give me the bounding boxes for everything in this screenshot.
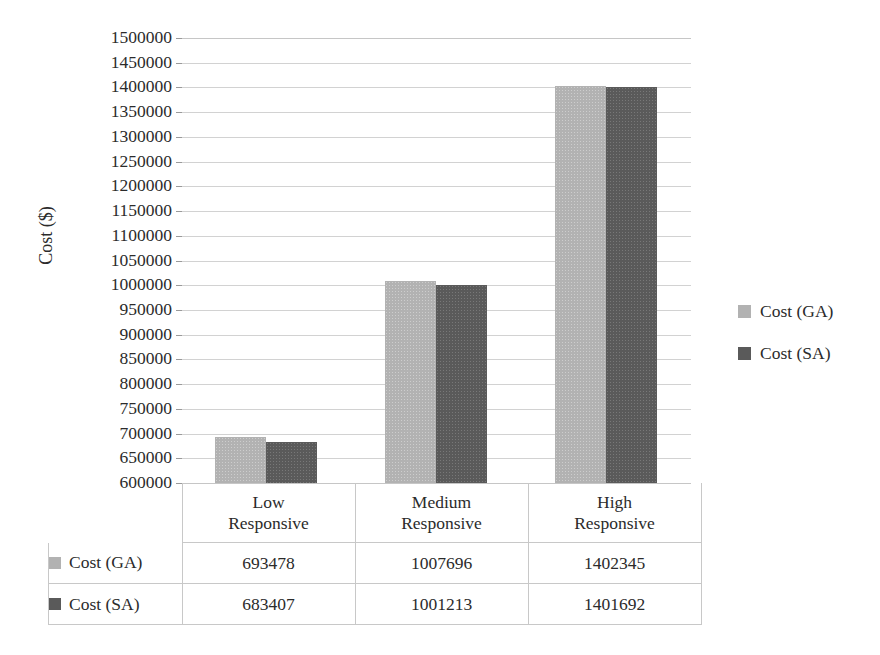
table-row-header: Cost (GA) <box>49 543 183 584</box>
table-swatch-icon <box>49 598 61 610</box>
y-axis-tick-label: 750000 <box>62 400 172 418</box>
y-axis-tick-label: 1050000 <box>62 252 172 270</box>
table-row: Cost (SA)68340710012131401692 <box>49 584 702 625</box>
y-axis-tick-mark <box>176 87 182 88</box>
y-axis-tick-mark <box>176 112 182 113</box>
y-axis-tick-mark <box>176 335 182 336</box>
table-cell: 1402345 <box>528 543 701 584</box>
y-axis-tick-label: 950000 <box>62 301 172 319</box>
bar-sa <box>606 87 657 483</box>
table-column-header-line: Responsive <box>356 513 528 534</box>
y-axis-tick-label: 850000 <box>62 350 172 368</box>
table-column-header-line: High <box>529 492 701 513</box>
y-axis-tick-mark <box>176 458 182 459</box>
table-column-header-line: Medium <box>356 492 528 513</box>
y-axis-tick-labels: 1500000145000014000001350000130000012500… <box>60 0 172 500</box>
y-axis-tick-mark <box>176 359 182 360</box>
y-axis-tick-mark <box>176 310 182 311</box>
y-axis-tick-mark <box>176 384 182 385</box>
legend-item[interactable]: Cost (GA) <box>738 290 833 332</box>
y-axis-tick-label: 1000000 <box>62 276 172 294</box>
table-column-header: MediumResponsive <box>355 483 528 543</box>
y-axis-tick-mark <box>176 409 182 410</box>
table-cell: 1001213 <box>355 584 528 625</box>
y-axis-tick-label: 1350000 <box>62 103 172 121</box>
gridline <box>181 38 691 39</box>
y-axis-tick-mark <box>176 211 182 212</box>
legend-item[interactable]: Cost (SA) <box>738 332 833 374</box>
table-row-header: Cost (SA) <box>49 584 183 625</box>
table-cell: 693478 <box>182 543 355 584</box>
y-axis-tick-label: 1150000 <box>62 202 172 220</box>
table-header-row: LowResponsiveMediumResponsiveHighRespons… <box>49 483 702 543</box>
bar-ga <box>385 281 436 483</box>
y-axis-tick-mark <box>176 137 182 138</box>
chart-figure: Cost ($) 1500000145000014000001350000130… <box>0 0 880 655</box>
gridline <box>181 63 691 64</box>
y-axis-tick-label: 1100000 <box>62 227 172 245</box>
y-axis-tick-mark <box>176 38 182 39</box>
table-row-label: Cost (GA) <box>69 552 142 573</box>
table-cell: 683407 <box>182 584 355 625</box>
table-swatch-icon <box>49 557 61 569</box>
table-row-label: Cost (SA) <box>69 594 140 615</box>
y-axis-tick-label: 1400000 <box>62 78 172 96</box>
y-axis-tick-mark <box>176 434 182 435</box>
y-axis-tick-label: 1200000 <box>62 177 172 195</box>
table-column-header-line: Responsive <box>183 513 355 534</box>
y-axis-tick-mark <box>176 63 182 64</box>
y-axis-tick-mark <box>176 261 182 262</box>
bar-sa <box>436 285 487 483</box>
legend-item-label: Cost (GA) <box>760 301 833 322</box>
y-axis-tick-label: 1450000 <box>62 54 172 72</box>
table-row: Cost (GA)69347810076961402345 <box>49 543 702 584</box>
bar-ga <box>555 86 606 483</box>
y-axis-tick-label: 1250000 <box>62 153 172 171</box>
y-axis-tick-label: 800000 <box>62 375 172 393</box>
bar-ga <box>215 437 266 483</box>
y-axis-tick-label: 1300000 <box>62 128 172 146</box>
y-axis-tick-label: 1500000 <box>62 29 172 47</box>
y-axis-title: Cost ($) <box>36 176 57 296</box>
y-axis-tick-mark <box>176 186 182 187</box>
table-column-header-line: Low <box>183 492 355 513</box>
table-cell: 1007696 <box>355 543 528 584</box>
y-axis-tick-label: 900000 <box>62 326 172 344</box>
y-axis-tick-mark <box>176 236 182 237</box>
legend-swatch-icon <box>738 347 751 360</box>
plot-area <box>181 38 691 483</box>
table-column-header: LowResponsive <box>182 483 355 543</box>
table-column-header: HighResponsive <box>528 483 701 543</box>
table-column-header-line: Responsive <box>529 513 701 534</box>
bar-sa <box>266 442 317 483</box>
table-cell: 1401692 <box>528 584 701 625</box>
y-axis-tick-label: 700000 <box>62 425 172 443</box>
table-corner-cell <box>49 483 183 543</box>
chart-legend: Cost (GA)Cost (SA) <box>738 290 833 374</box>
y-axis-tick-mark <box>176 162 182 163</box>
chart-data-table: LowResponsiveMediumResponsiveHighRespons… <box>48 483 697 625</box>
legend-item-label: Cost (SA) <box>760 343 831 364</box>
legend-swatch-icon <box>738 305 751 318</box>
y-axis-tick-label: 650000 <box>62 449 172 467</box>
y-axis-tick-mark <box>176 285 182 286</box>
